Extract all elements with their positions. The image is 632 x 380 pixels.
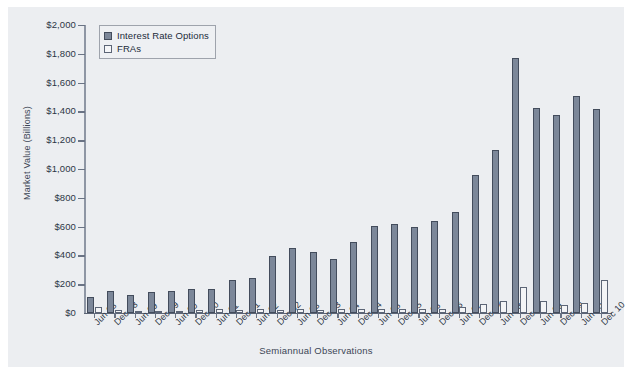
bar-fras bbox=[115, 310, 122, 313]
bar-fras bbox=[419, 309, 426, 313]
bar-fras bbox=[439, 309, 446, 313]
legend-swatch-icon bbox=[104, 32, 112, 40]
y-axis-tick-label: $400 bbox=[0, 249, 84, 261]
bar-fras bbox=[135, 311, 142, 313]
bar-fras bbox=[520, 287, 527, 313]
legend-label: Interest Rate Options bbox=[117, 30, 209, 41]
bar-interest-rate-options bbox=[452, 212, 459, 313]
bar-interest-rate-options bbox=[573, 96, 580, 313]
bar-interest-rate-options bbox=[371, 226, 378, 313]
bar-interest-rate-options bbox=[350, 242, 357, 313]
bar-interest-rate-options bbox=[593, 109, 600, 313]
bar-fras bbox=[358, 309, 365, 313]
bar-interest-rate-options bbox=[472, 175, 479, 313]
x-axis-title: Semiannual Observations bbox=[0, 345, 632, 356]
y-axis-tick-label: $1,000 bbox=[0, 163, 84, 175]
bar-fras bbox=[561, 305, 568, 313]
bar-interest-rate-options bbox=[431, 221, 438, 313]
bar-fras bbox=[317, 310, 324, 313]
y-axis-tick-label: $600 bbox=[0, 221, 84, 233]
legend-label: FRAs bbox=[117, 43, 141, 54]
bar-interest-rate-options bbox=[168, 291, 175, 313]
bar-fras bbox=[601, 280, 608, 313]
bar-interest-rate-options bbox=[269, 256, 276, 313]
bar-interest-rate-options bbox=[188, 289, 195, 313]
bar-fras bbox=[196, 310, 203, 313]
bar-fras bbox=[176, 311, 183, 313]
bar-interest-rate-options bbox=[492, 150, 499, 313]
bar-fras bbox=[459, 307, 466, 313]
legend-item: FRAs bbox=[104, 42, 209, 55]
bar-fras bbox=[257, 309, 264, 313]
y-axis-tick-label: $1,400 bbox=[0, 105, 84, 117]
bar-interest-rate-options bbox=[512, 58, 519, 313]
y-axis-tick-label: $1,600 bbox=[0, 77, 84, 89]
bar-fras bbox=[581, 303, 588, 313]
chart-figure: Market Value (Billions) Semiannual Obser… bbox=[0, 0, 632, 380]
bar-fras bbox=[95, 307, 102, 313]
bar-fras bbox=[216, 309, 223, 313]
legend-swatch-icon bbox=[104, 45, 112, 53]
bar-fras bbox=[540, 301, 547, 313]
bar-interest-rate-options bbox=[330, 259, 337, 313]
bar-interest-rate-options bbox=[533, 108, 540, 313]
bar-interest-rate-options bbox=[553, 115, 560, 313]
bar-interest-rate-options bbox=[148, 292, 155, 313]
bar-interest-rate-options bbox=[411, 227, 418, 313]
bar-fras bbox=[297, 309, 304, 313]
bar-interest-rate-options bbox=[249, 278, 256, 313]
y-axis-tick-label: $1,800 bbox=[0, 48, 84, 60]
bar-interest-rate-options bbox=[127, 295, 134, 313]
bar-interest-rate-options bbox=[87, 297, 94, 313]
bar-fras bbox=[155, 311, 162, 313]
bar-fras bbox=[277, 310, 284, 313]
bar-interest-rate-options bbox=[289, 248, 296, 313]
bar-fras bbox=[480, 304, 487, 313]
y-axis-tick-label: $0 bbox=[0, 307, 84, 319]
y-axis-tick-label: $800 bbox=[0, 192, 84, 204]
chart-legend: Interest Rate OptionsFRAs bbox=[99, 25, 216, 59]
legend-item: Interest Rate Options bbox=[104, 29, 209, 42]
bar-fras bbox=[378, 309, 385, 313]
bar-fras bbox=[399, 309, 406, 313]
bar-interest-rate-options bbox=[208, 289, 215, 313]
bar-fras bbox=[236, 310, 243, 313]
bar-interest-rate-options bbox=[310, 252, 317, 313]
bar-fras bbox=[338, 309, 345, 313]
bar-fras bbox=[500, 301, 507, 313]
y-axis-tick-label: $1,200 bbox=[0, 134, 84, 146]
plot-area bbox=[84, 25, 611, 313]
y-axis-tick-label: $2,000 bbox=[0, 19, 84, 31]
y-axis-tick-label: $200 bbox=[0, 278, 84, 290]
bar-interest-rate-options bbox=[229, 280, 236, 313]
bar-interest-rate-options bbox=[107, 291, 114, 313]
bar-interest-rate-options bbox=[391, 224, 398, 313]
